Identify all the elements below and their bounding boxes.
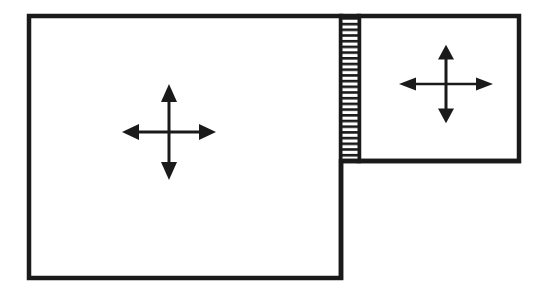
main-pane[interactable] [29,16,341,278]
splitter-handle[interactable] [339,14,361,163]
side-pane[interactable] [359,16,519,161]
window-layout-diagram [0,0,548,297]
